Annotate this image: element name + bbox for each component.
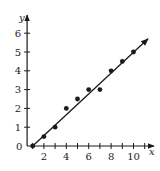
data-point <box>53 125 58 130</box>
x-tick-label: 6 <box>86 151 92 162</box>
data-point <box>86 87 91 92</box>
x-tick-label: 2 <box>41 151 47 162</box>
data-point <box>30 144 35 149</box>
y-tick-label: 5 <box>15 47 21 58</box>
y-tick-label: 1 <box>15 122 21 133</box>
data-point <box>42 134 47 139</box>
axes <box>27 15 154 146</box>
y-tick-label: 3 <box>15 84 21 95</box>
y-tick-label: 4 <box>15 65 21 76</box>
axis-ticks <box>24 33 145 149</box>
y-tick-label: 2 <box>15 103 21 114</box>
regression-line <box>33 39 148 146</box>
y-axis-label: y <box>18 12 25 23</box>
tick-labels: 246810123456 <box>15 28 140 162</box>
data-point <box>131 50 136 55</box>
data-point <box>98 87 103 92</box>
data-point <box>75 97 80 102</box>
data-point <box>109 68 114 73</box>
scatter-plot: 246810123456 x y 0 <box>0 0 160 171</box>
x-tick-label: 8 <box>108 151 114 162</box>
data-point <box>120 59 125 64</box>
y-tick-label: 6 <box>15 28 21 39</box>
x-tick-label: 10 <box>127 151 140 162</box>
origin-label: 0 <box>16 141 22 152</box>
x-axis-label: x <box>149 146 155 157</box>
fitted-line <box>33 39 148 146</box>
data-point <box>64 106 69 111</box>
x-tick-label: 4 <box>63 151 69 162</box>
